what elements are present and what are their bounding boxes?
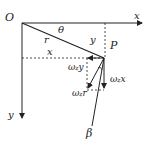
origin-label: O — [5, 12, 14, 23]
omega-z-r-label: ωzr — [72, 89, 87, 98]
x-distance-label: x — [47, 47, 53, 57]
y-distance-label: y — [90, 35, 96, 45]
x-axis-label: x — [134, 11, 140, 21]
theta-label: θ — [58, 25, 64, 35]
y-axis-label: y — [8, 110, 14, 120]
beta-label: β — [86, 128, 92, 139]
kinematics-diagram — [0, 0, 148, 146]
point-p-label: P — [110, 40, 117, 51]
omega-z-x-label: ωzx — [110, 75, 126, 84]
omega-z-y-label: ωzy — [68, 63, 84, 72]
r-label: r — [44, 35, 49, 45]
